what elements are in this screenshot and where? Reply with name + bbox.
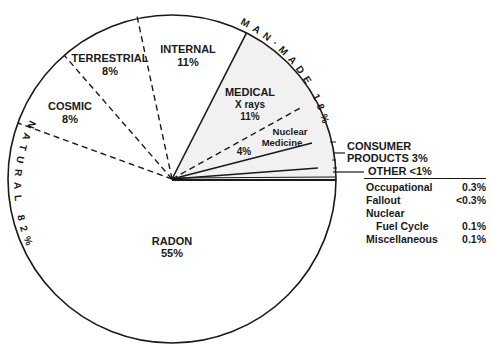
other-breakdown-legend: Occupational 0.3% Fallout <0.3% Nuclear … [366,181,486,246]
legend-name: Miscellaneous [366,233,438,246]
cosmic-pct: 8% [62,113,78,125]
terrestrial-label: TERRESTRIAL [72,52,149,64]
internal-pct: 11% [177,56,199,68]
legend-value: 0.1% [462,233,486,246]
radon-label: RADON [152,235,192,247]
consumer-line2: PRODUCTS 3% [347,152,428,164]
legend-row-nuclear: Nuclear [366,207,486,220]
pie-chart: RADON 55% COSMIC 8% TERRESTRIAL 8% INTER… [0,0,492,354]
nuclear-medicine-line2: Medicine [262,137,303,148]
other-divider-rule [364,178,486,179]
radon-pct: 55% [161,247,183,259]
legend-value: 0.3% [462,181,486,194]
terrestrial-pct: 8% [102,65,118,77]
legend-name: Fallout [366,194,400,207]
radon-cosmic-divider [18,123,172,179]
legend-row-miscellaneous: Miscellaneous 0.1% [366,233,486,246]
legend-value: <0.3% [456,194,486,207]
legend-name: Fuel Cycle [366,220,429,233]
nuclear-medicine-pct: 4% [237,146,252,157]
cosmic-label: COSMIC [48,100,92,112]
legend-name: Occupational [366,181,433,194]
nuclear-medicine-line1: Nuclear [273,126,308,137]
medical-pct: 11% [240,111,260,122]
legend-row-fallout: Fallout <0.3% [366,194,486,207]
legend-value: 0.1% [462,220,486,233]
consumer-line1: CONSUMER [347,140,428,152]
medical-sub: X rays [235,99,265,110]
internal-label: INTERNAL [160,43,216,55]
legend-row-occupational: Occupational 0.3% [366,181,486,194]
cosmic-terrestrial-divider [64,55,172,179]
legend-row-fuel-cycle: Fuel Cycle 0.1% [366,220,486,233]
other-title: OTHER <1% [368,165,432,177]
medical-label: MEDICAL [225,86,275,98]
legend-name: Nuclear [366,207,405,220]
consumer-products-label: CONSUMER PRODUCTS 3% [347,140,428,164]
terrestrial-internal-divider [137,16,172,179]
